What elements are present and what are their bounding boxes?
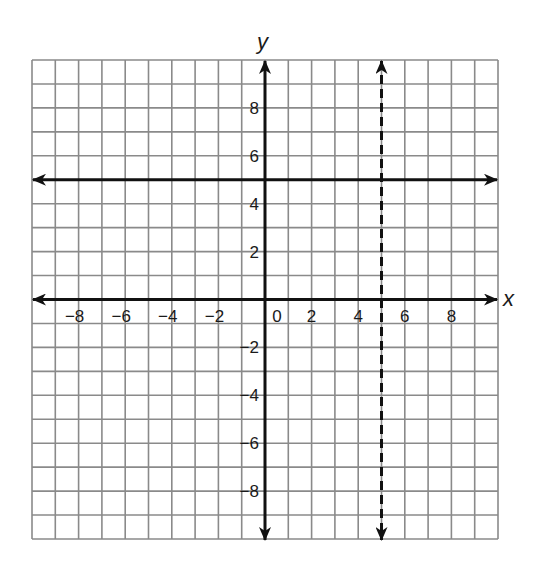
x-tick-label: 8	[447, 307, 456, 326]
x-tick-label: −8	[65, 307, 84, 326]
y-tick-label: −6	[240, 434, 259, 453]
y-tick-label: 8	[250, 99, 259, 118]
coordinate-plane: −8−6−4−2024688642−2−4−6−8 x y	[0, 0, 541, 568]
y-tick-label: 6	[250, 147, 259, 166]
x-tick-label: 0	[272, 307, 281, 326]
x-tick-label: 2	[307, 307, 316, 326]
y-tick-label: 4	[250, 195, 259, 214]
y-axis-label: y	[255, 29, 270, 54]
y-tick-label: −2	[240, 338, 259, 357]
y-tick-label: −8	[240, 482, 259, 501]
x-tick-label: 4	[353, 307, 362, 326]
x-tick-label: −4	[158, 307, 177, 326]
x-axis-label: x	[502, 286, 515, 311]
x-tick-label: −6	[112, 307, 131, 326]
y-tick-label: −4	[240, 386, 259, 405]
x-tick-label: −2	[205, 307, 224, 326]
y-tick-label: 2	[250, 243, 259, 262]
x-tick-label: 6	[400, 307, 409, 326]
